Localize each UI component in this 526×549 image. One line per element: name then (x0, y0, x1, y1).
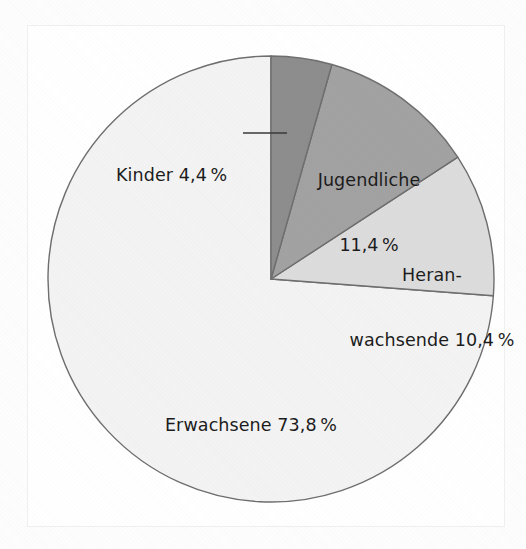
pie-label-heranwachsende-value: wachsende 10,4 % (348, 330, 516, 352)
pie-label-jugendliche-name: Jugendliche (307, 170, 431, 192)
pie-label-heranwachsende-name: Heran- (348, 265, 516, 287)
pie-label-kinder: Kinder 4,4 % (116, 122, 227, 230)
pie-label-erwachsene-text: Erwachsene 73,8 % (152, 415, 350, 437)
pie-label-erwachsene: Erwachsene 73,8 % (152, 372, 350, 480)
pie-label-heranwachsende: Heran- wachsende 10,4 % (348, 222, 516, 396)
pie-label-kinder-text: Kinder 4,4 % (116, 165, 227, 187)
pie-chart: Kinder 4,4 % Jugendliche 11,4 % Heran- w… (0, 0, 526, 549)
